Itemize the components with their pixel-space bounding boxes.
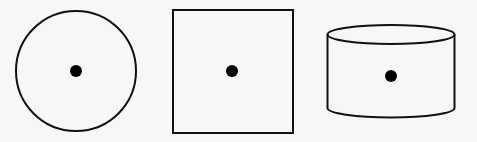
cylinder-center-dot bbox=[385, 70, 397, 82]
shapes-diagram bbox=[0, 0, 477, 142]
circle-center-dot bbox=[70, 65, 82, 77]
square-center-dot bbox=[226, 65, 238, 77]
